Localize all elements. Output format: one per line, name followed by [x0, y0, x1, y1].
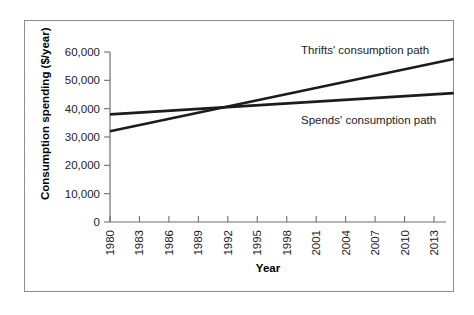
series-label-thrifts: Thrifts' consumption path — [301, 44, 429, 56]
y-tick-label: 30,000 — [65, 131, 100, 143]
x-tick-label: 1998 — [281, 230, 293, 256]
y-tick-label: 40,000 — [65, 103, 100, 115]
x-axis-title: Year — [256, 262, 281, 274]
x-tick-label: 1995 — [251, 230, 263, 256]
y-axis-title: Consumption spending ($/year) — [39, 27, 51, 200]
x-tick-label: 1986 — [163, 230, 175, 256]
x-tick-label: 1980 — [104, 230, 116, 256]
y-tick-label: 10,000 — [65, 188, 100, 200]
x-tick-label: 2001 — [310, 230, 322, 256]
x-tick-label: 1983 — [133, 230, 145, 256]
y-tick-label: 60,000 — [65, 46, 100, 58]
y-axis-tick-group — [104, 52, 110, 222]
x-tick-label: 1989 — [192, 230, 204, 256]
x-tick-label: 2010 — [399, 230, 411, 256]
line-chart: 010,00020,00030,00040,00050,00060,000 19… — [0, 0, 474, 315]
chart-figure: 010,00020,00030,00040,00050,00060,000 19… — [0, 0, 474, 315]
x-tick-label: 1992 — [222, 230, 234, 256]
y-tick-label: 50,000 — [65, 74, 100, 86]
y-tick-label: 20,000 — [65, 159, 100, 171]
series-label-spends: Spends' consumption path — [301, 114, 436, 126]
x-tick-label: 2013 — [428, 230, 440, 256]
y-tick-label: 0 — [94, 216, 100, 228]
x-tick-label: 2007 — [369, 230, 381, 256]
x-axis-tick-group — [110, 216, 434, 222]
x-axis-tick-labels: 1980198319861989199219951998200120042007… — [104, 229, 440, 255]
y-axis-tick-labels: 010,00020,00030,00040,00050,00060,000 — [65, 46, 100, 228]
x-tick-label: 2004 — [340, 229, 352, 255]
